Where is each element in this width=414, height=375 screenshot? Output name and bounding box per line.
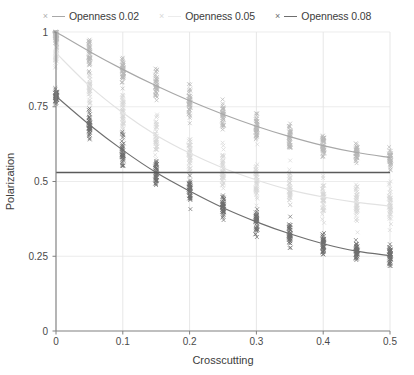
- x-tick-label: 0.3: [249, 336, 263, 347]
- legend-entry-openness-008[interactable]: × Openness 0.08: [275, 10, 371, 22]
- legend-line-icon: [284, 16, 297, 17]
- plot-canvas: 00.10.20.30.40.500.250.50.751 Crosscutti…: [0, 0, 414, 375]
- x-tick-label: 0.2: [183, 336, 197, 347]
- legend-entry-openness-002[interactable]: × Openness 0.02: [43, 10, 139, 22]
- legend-marker-icon: ×: [275, 12, 280, 21]
- legend-label: Openness 0.02: [69, 10, 139, 22]
- y-tick-label: 1: [42, 27, 48, 38]
- x-tick-label: 0.5: [383, 336, 397, 347]
- x-axis-title: Crosscutting: [192, 354, 253, 366]
- tick-labels: 00.10.20.30.40.500.250.50.751: [29, 27, 398, 348]
- legend-line-icon: [52, 16, 65, 17]
- legend-line-icon: [168, 16, 181, 17]
- x-tick-label: 0.1: [116, 336, 130, 347]
- trend-curves: [56, 32, 390, 256]
- scatter-points: [53, 30, 393, 268]
- y-tick-label: 0.5: [34, 176, 48, 187]
- x-tick-label: 0.4: [316, 336, 330, 347]
- legend-label: Openness 0.08: [301, 10, 371, 22]
- y-tick-label: 0.25: [29, 251, 49, 262]
- y-tick-label: 0.75: [29, 101, 49, 112]
- legend-marker-icon: ×: [43, 12, 48, 21]
- chart-legend: × Openness 0.02 × Openness 0.05 × Openne…: [0, 6, 414, 26]
- x-tick-label: 0: [53, 336, 59, 347]
- legend-marker-icon: ×: [159, 12, 164, 21]
- legend-entry-openness-005[interactable]: × Openness 0.05: [159, 10, 255, 22]
- y-tick-label: 0: [42, 326, 48, 337]
- y-axis-title: Polarization: [4, 153, 16, 210]
- chart-figure: × Openness 0.02 × Openness 0.05 × Openne…: [0, 0, 414, 375]
- legend-label: Openness 0.05: [185, 10, 255, 22]
